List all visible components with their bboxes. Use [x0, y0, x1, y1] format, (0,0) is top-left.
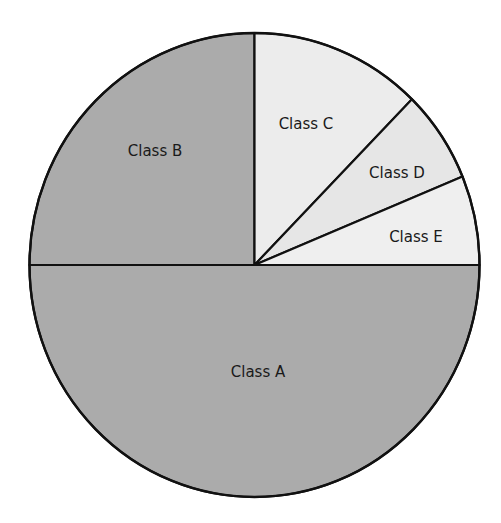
slice-label-class-e: Class E: [389, 228, 443, 246]
pie-slice-class-a: [30, 265, 480, 497]
slice-label-class-c: Class C: [279, 115, 334, 133]
pie-chart: Class A Class B Class C Class D Class E: [0, 0, 501, 523]
slice-label-class-a: Class A: [231, 363, 286, 381]
pie-slices: [30, 33, 480, 497]
slice-label-class-d: Class D: [369, 164, 425, 182]
slice-label-class-b: Class B: [128, 142, 183, 160]
